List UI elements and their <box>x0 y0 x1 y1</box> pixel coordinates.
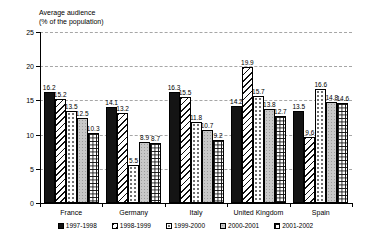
legend-item-2001-2002: 2001-2002 <box>274 222 313 229</box>
bar-1999-2000-United Kingdom <box>253 96 264 203</box>
bar-2001-2002-Italy <box>213 140 224 203</box>
value-label: 10.7 <box>193 122 221 129</box>
value-label: 13.2 <box>109 105 137 112</box>
bar-2001-2002-Germany <box>150 143 161 203</box>
x-axis-tick <box>352 204 353 207</box>
value-label: 12.5 <box>68 110 96 117</box>
legend-item-1999-2000: 1999-2000 <box>166 222 205 229</box>
bar-1998-1999-France <box>55 99 66 203</box>
bar-2000-2001-Italy <box>202 130 213 203</box>
y-tick-label: 15 <box>14 97 34 104</box>
bar-1997-1998-Germany <box>106 107 117 203</box>
bar-1999-2000-Germany <box>128 165 139 203</box>
value-label: 19.9 <box>233 59 261 66</box>
bar-2001-2002-Spain <box>337 103 348 203</box>
value-label: 15.2 <box>46 91 74 98</box>
bar-1997-1998-Spain <box>293 111 304 203</box>
x-axis-tick <box>165 204 166 207</box>
legend-marker-grid-icon <box>274 223 280 229</box>
y-tick-label: 0 <box>14 200 34 207</box>
value-label: 11.8 <box>182 114 210 121</box>
category-label-spain: Spain <box>281 209 361 217</box>
x-axis-tick <box>40 204 41 207</box>
x-axis-tick <box>102 204 103 207</box>
y-tick-label: 5 <box>14 166 34 173</box>
y-tick-label: 10 <box>14 132 34 139</box>
value-label: 9.2 <box>204 132 232 139</box>
x-axis-line <box>40 203 353 204</box>
y-axis-line <box>40 32 41 203</box>
legend-marker-gray-icon <box>220 223 226 229</box>
gridline <box>40 66 352 67</box>
y-tick-label: 25 <box>14 29 34 36</box>
y-tick-label: 20 <box>14 63 34 70</box>
chart-title: Average audience (% of the population) <box>39 8 104 26</box>
legend-item-2000-2001: 2000-2001 <box>220 222 259 229</box>
chart-title-line1: Average audience <box>39 8 104 17</box>
legend-label: 1999-2000 <box>174 222 205 229</box>
y-axis-tick <box>36 32 40 33</box>
legend-marker-solid-black-icon <box>58 223 64 229</box>
value-label: 14.6 <box>329 95 357 102</box>
bar-2000-2001-Germany <box>139 142 150 203</box>
legend-item-1998-1999: 1998-1999 <box>112 222 151 229</box>
legend-label: 2000-2001 <box>228 222 259 229</box>
chart-title-line2: (% of the population) <box>39 17 104 26</box>
bar-1998-1999-Spain <box>304 137 315 203</box>
gridline <box>40 100 352 101</box>
bar-1997-1998-Italy <box>169 92 180 203</box>
bar-1999-2000-Italy <box>191 122 202 203</box>
bar-1997-1998-United Kingdom <box>231 106 242 203</box>
y-axis-tick <box>36 135 40 136</box>
bar-1998-1999-Italy <box>180 97 191 203</box>
value-label: 15.5 <box>171 89 199 96</box>
bar-1999-2000-Spain <box>315 89 326 203</box>
chart-canvas: Average audience (% of the population) 1… <box>0 0 371 241</box>
legend-marker-diag-icon <box>112 223 118 229</box>
bar-1997-1998-France <box>44 92 55 203</box>
y-axis-tick <box>36 66 40 67</box>
bar-1999-2000-France <box>66 111 77 203</box>
value-label: 16.6 <box>307 81 335 88</box>
bar-2000-2001-Spain <box>326 102 337 203</box>
bar-2001-2002-France <box>88 133 99 203</box>
value-label: 8.7 <box>142 135 170 142</box>
legend-marker-dots-icon <box>166 223 172 229</box>
x-axis-tick <box>290 204 291 207</box>
legend-label: 1998-1999 <box>120 222 151 229</box>
bar-2000-2001-United Kingdom <box>264 109 275 203</box>
x-axis-tick <box>227 204 228 207</box>
gridline <box>40 32 352 33</box>
value-label: 15.7 <box>244 88 272 95</box>
value-label: 13.8 <box>255 101 283 108</box>
legend-label: 2001-2002 <box>282 222 313 229</box>
y-axis-tick <box>36 100 40 101</box>
legend-item-1997-1998: 1997-1998 <box>58 222 97 229</box>
legend: 1997-19981998-19991999-20002000-20012001… <box>0 222 371 229</box>
legend-label: 1997-1998 <box>66 222 97 229</box>
y-axis-tick <box>36 169 40 170</box>
value-label: 13.5 <box>285 103 313 110</box>
value-label: 10.3 <box>79 125 107 132</box>
bar-2001-2002-United Kingdom <box>275 116 286 203</box>
